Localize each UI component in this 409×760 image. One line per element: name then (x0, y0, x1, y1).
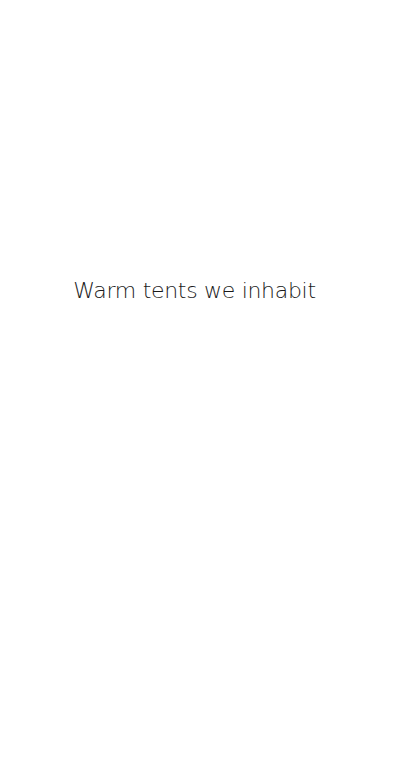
caption-text: Warm tents we inhabit (0, 276, 389, 306)
blank-screen: Warm tents we inhabit (0, 0, 409, 760)
